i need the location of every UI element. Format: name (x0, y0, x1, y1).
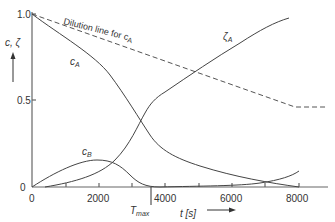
curve-zetaA (45, 18, 289, 187)
x-tick-label-8000: 8000 (286, 193, 309, 204)
x-axis-arrowhead (229, 208, 236, 213)
curve-cA (32, 14, 299, 187)
y-tick-label-0: 0 (20, 182, 26, 193)
x-tick-label-6000: 6000 (220, 193, 243, 204)
x-tick-label-4000: 4000 (154, 193, 177, 204)
x-tick-label-2000: 2000 (87, 193, 110, 204)
x-axis-label: t [s] (180, 208, 196, 219)
chart-svg: 1.0 0.5 0 0 2000 4000 6000 8000 c, ζ t [… (0, 0, 335, 222)
curve-cB (32, 160, 299, 187)
x-tick-label-0: 0 (29, 193, 35, 204)
chart-container: 1.0 0.5 0 0 2000 4000 6000 8000 c, ζ t [… (0, 0, 335, 222)
tmax-label: Tmax (130, 205, 150, 217)
label-zetaA: ζA (223, 31, 233, 43)
y-tick-label-05: 0.5 (17, 95, 31, 106)
label-cB: cB (82, 146, 92, 158)
y-tick-label-1: 1.0 (17, 9, 31, 20)
y-axis-label: c, ζ (5, 37, 22, 49)
dilution-label: Dilution line for cA (62, 16, 134, 44)
y-axis-arrowhead (11, 52, 16, 59)
label-cA: cA (70, 56, 80, 68)
